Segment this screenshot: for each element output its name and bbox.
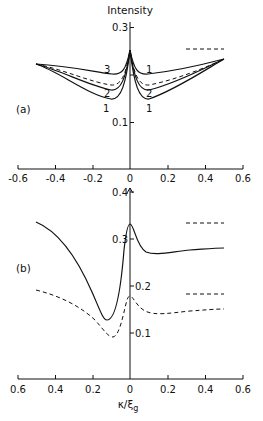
curve-label: 3 [104, 64, 110, 75]
panel-b: 0.4 0.3 0.2 0.1 0.6 0.4 0.2 0 0.2 0.4 0.… [10, 187, 251, 413]
y-tick-label-b: 0.2 [135, 281, 151, 292]
x-tick-label-b: 0.4 [48, 384, 64, 395]
y-ticks-b [130, 192, 134, 333]
y-axis-title: Intensity [107, 4, 153, 16]
x-tick-label-a: 0.6 [235, 173, 251, 184]
x-tick-label-a: 0 [127, 173, 133, 184]
x-tick-label-b: 0.4 [198, 384, 214, 395]
figure: Intensity 0.3 0.1 -0.6 -0.4 -0.2 0 0.2 0… [0, 0, 263, 421]
x-tick-label-a: 0.2 [160, 173, 176, 184]
curve-label: 2 [104, 88, 110, 99]
curve-label: 2 [146, 88, 152, 99]
x-tick-label-b: 0.6 [235, 384, 251, 395]
panel-label-b: (b) [16, 262, 31, 274]
x-tick-label-b: 0.2 [85, 384, 101, 395]
panel-label-a: (a) [16, 103, 31, 115]
curve-label: 1 [146, 103, 152, 114]
y-tick-label-b: 0.4 [112, 187, 128, 198]
x-axis-title: κ/ξg [118, 398, 139, 413]
x-tick-label-b: 0.6 [10, 384, 26, 395]
x-tick-label-b: 0.2 [160, 384, 176, 395]
panel-a: Intensity 0.3 0.1 -0.6 -0.4 -0.2 0 0.2 0… [8, 4, 251, 184]
x-tick-label-a: 0.4 [198, 173, 214, 184]
x-tick-label-b: 0 [127, 384, 133, 395]
curve-label: 1 [103, 103, 109, 114]
x-tick-label-a: -0.2 [83, 173, 103, 184]
x-tick-label-a: -0.4 [46, 173, 66, 184]
y-tick-label-a: 0.3 [112, 22, 128, 33]
x-tick-label-a: -0.6 [8, 173, 28, 184]
y-tick-label-a: 0.1 [112, 117, 128, 128]
y-tick-label-b: 0.1 [135, 328, 151, 339]
curve-label: 1 [146, 64, 152, 75]
